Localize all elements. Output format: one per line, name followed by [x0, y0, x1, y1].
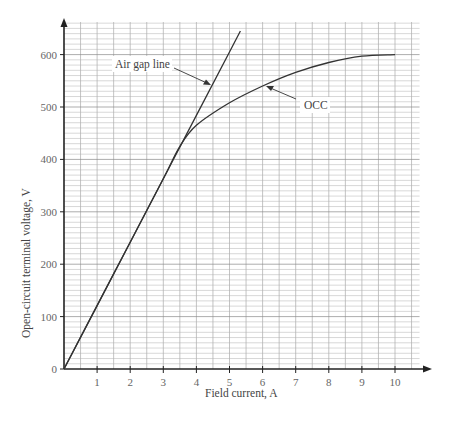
y-tick-label: 100 — [41, 311, 58, 323]
tick-labels: 123456789100100200300400500600 — [41, 49, 402, 388]
y-tick-label: 600 — [41, 49, 58, 61]
y-tick-label: 500 — [41, 101, 58, 113]
x-axis-arrow-icon — [423, 366, 432, 373]
y-tick-label: 300 — [41, 206, 58, 218]
y-axis-label: Open-circuit terminal voltage, V — [20, 187, 33, 338]
occ-label: OCC — [304, 99, 328, 111]
y-axis-arrow-icon — [61, 18, 68, 27]
x-tick-label: 3 — [161, 376, 167, 388]
x-tick-label: 10 — [390, 376, 402, 388]
x-tick-label: 9 — [359, 376, 365, 388]
x-tick-label: 7 — [293, 376, 299, 388]
x-tick-label: 8 — [326, 376, 332, 388]
x-tick-label: 2 — [127, 376, 133, 388]
y-tick-label: 200 — [41, 258, 58, 270]
x-tick-label: 4 — [194, 376, 200, 388]
y-tick-label: 400 — [41, 153, 58, 165]
grid — [64, 22, 420, 369]
occ-chart: 123456789100100200300400500600 Air gap l… — [0, 0, 451, 421]
x-tick-label: 1 — [94, 376, 100, 388]
occ-arrow-head-icon — [266, 86, 274, 91]
y-tick-label: 0 — [52, 363, 58, 375]
airgap-label: Air gap line — [115, 58, 170, 71]
x-axis-label: Field current, A — [205, 387, 278, 400]
